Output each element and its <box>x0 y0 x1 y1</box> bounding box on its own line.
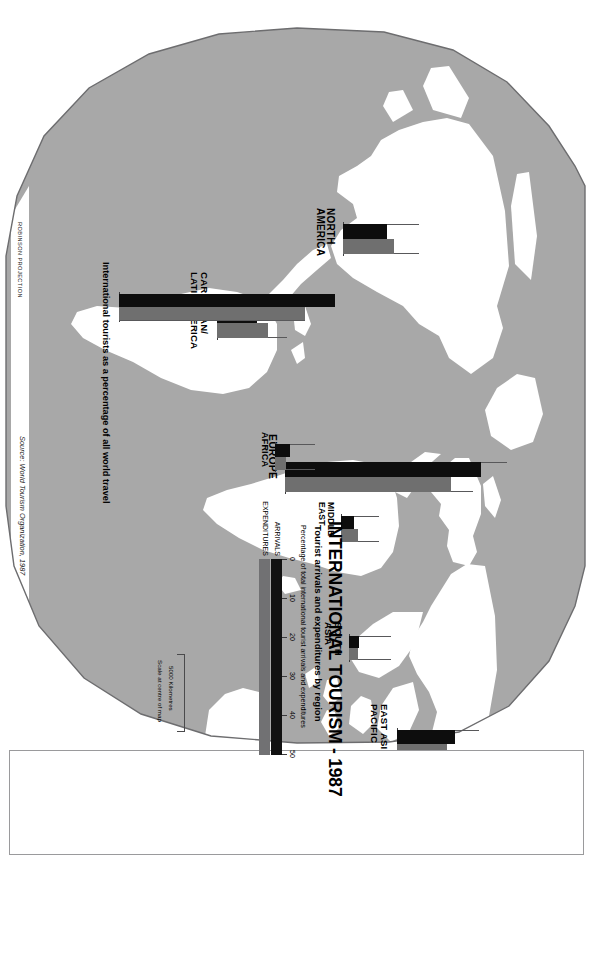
axis-tick <box>282 715 287 716</box>
legend-key-expenditures: EXPENDITURES <box>262 501 269 556</box>
bar-expenditures <box>275 457 286 470</box>
axis-tick-label: 50 <box>288 750 296 758</box>
scale-length-label: 5000 Kilometres <box>168 666 175 711</box>
bar-arrivals <box>349 636 359 648</box>
legend-subtitle: Tourist arrivals and expenditures by reg… <box>313 525 324 722</box>
axis-tick-label: 20 <box>288 633 296 641</box>
legend-axis: 0 10 20 30 40 50 <box>282 559 295 755</box>
scale-note: Scale at centre of map <box>157 660 164 722</box>
bargroup-europe: EUROPE <box>285 460 509 494</box>
bar-expenditures <box>217 323 268 338</box>
scale-bar-line <box>177 654 185 732</box>
bar-arrivals <box>397 730 455 744</box>
legend-swatch-arrivals <box>271 559 282 755</box>
legend-keys: ARRIVALS EXPENDITURES <box>255 515 295 559</box>
axis-tick-label: 30 <box>288 672 296 680</box>
legend-swatch-expenditures <box>259 559 270 755</box>
axis-tick <box>282 676 287 677</box>
axis-tick <box>282 598 287 599</box>
whisker-expenditures <box>119 320 305 321</box>
legend-panel: INTERNATIONAL TOURISM - 1987 Tourist arr… <box>9 750 584 855</box>
axis-tick-label: 40 <box>288 711 296 719</box>
bargroup-north-america: NORTH AMERICA <box>343 222 421 256</box>
bar-expenditures <box>349 648 358 660</box>
scale-bar: 5000 Kilometres Scale at centre of map <box>151 654 185 744</box>
map-rotated-canvas: EUROPE MIDDLE EAST <box>0 0 593 967</box>
legend-scale-chart: 0 10 20 30 40 50 <box>255 559 295 755</box>
bar-arrivals <box>119 294 335 307</box>
axis-tick-label: 0 <box>288 557 296 561</box>
legend-key-arrivals: ARRIVALS <box>274 522 281 556</box>
bar-arrivals <box>343 224 387 239</box>
legend-content: INTERNATIONAL TOURISM - 1987 Tourist arr… <box>244 515 349 967</box>
region-label-africa: AFRICA <box>260 432 269 502</box>
bargroup-world-total <box>119 292 337 322</box>
bargroup-south-asia: SOUTH ASIA <box>349 634 393 662</box>
map-sheet: EUROPE MIDDLE EAST <box>0 0 593 967</box>
source-label: Source: World Tourism Organization, 1987 <box>18 436 27 575</box>
bar-expenditures <box>285 477 451 492</box>
legend-swatches <box>257 559 282 755</box>
projection-label: ROBINSON PROJECTION <box>17 222 23 298</box>
axis-tick <box>282 754 287 755</box>
legend-title: INTERNATIONAL TOURISM - 1987 <box>324 521 345 796</box>
bar-expenditures <box>343 239 394 254</box>
axis-tick-label: 10 <box>288 594 296 602</box>
region-label-north-america: NORTH AMERICA <box>315 208 335 298</box>
axis-tick <box>282 637 287 638</box>
bar-arrivals <box>275 444 290 457</box>
bar-expenditures <box>119 307 305 320</box>
bargroup-africa: AFRICA <box>275 442 317 472</box>
axis-tick <box>282 559 287 560</box>
map-annotation: International tourists as a percentage o… <box>101 262 111 504</box>
legend-caption: Percentage of total international touris… <box>299 525 307 728</box>
